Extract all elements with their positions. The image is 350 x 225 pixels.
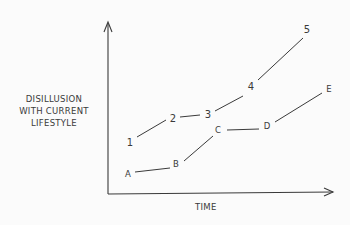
letter-series-lines [135,93,322,172]
point-B: B [173,159,179,169]
point-1: 1 [127,137,133,148]
point-C: C [215,125,221,135]
x-axis [108,192,333,194]
diagram-canvas: 1 2 3 4 5 A B C D E [0,0,350,225]
point-3: 3 [205,109,211,120]
point-D: D [264,121,271,131]
point-2: 2 [170,113,176,124]
point-5: 5 [304,24,310,35]
number-series-lines [137,38,303,137]
point-E: E [326,84,331,94]
point-A: A [125,169,131,179]
point-4: 4 [248,81,254,92]
